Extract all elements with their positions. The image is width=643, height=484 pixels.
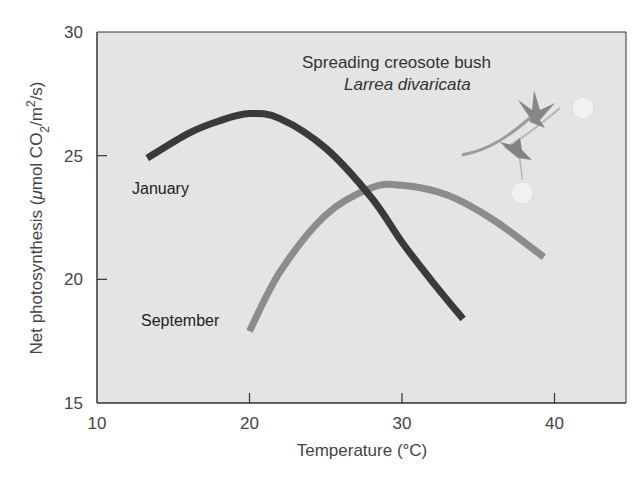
x-tick-label: 40 <box>545 414 564 433</box>
y-tick-label: 15 <box>64 394 83 413</box>
y-tick-label: 25 <box>64 147 83 166</box>
annotation-common-name: Spreading creosote bush <box>302 53 491 72</box>
x-tick-label: 30 <box>393 414 412 433</box>
photosynthesis-chart: 1020304030252015 January September Sprea… <box>0 0 643 484</box>
annotation-latin-name: Larrea divaricata <box>344 75 471 94</box>
september-label: September <box>141 312 220 329</box>
y-axis-title: Net photosynthesis (μmol CO2/m2/s) <box>24 81 52 354</box>
y-tick-label: 20 <box>64 270 83 289</box>
y-tick-label: 30 <box>64 23 83 42</box>
x-tick-label: 20 <box>240 414 259 433</box>
january-label: January <box>132 180 189 197</box>
x-axis-title: Temperature (°C) <box>297 441 428 460</box>
x-tick-label: 10 <box>88 414 107 433</box>
